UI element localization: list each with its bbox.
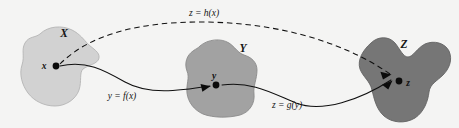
- point-dot-x: [53, 63, 60, 70]
- set-label-z: Z: [399, 38, 407, 50]
- function-composition-figure: X Y Z x y z z = h(x) y = f(x) z = g(y): [0, 0, 459, 128]
- diagram-canvas: X Y Z x y z z = h(x) y = f(x) z = g(y): [0, 0, 459, 128]
- point-label-z: z: [405, 78, 410, 88]
- set-label-y: Y: [239, 42, 247, 54]
- mapping-label-f: y = f(x): [107, 91, 137, 102]
- set-label-x: X: [59, 27, 68, 39]
- set-blob-z: [359, 38, 450, 122]
- point-dot-z: [396, 78, 403, 85]
- point-label-y: y: [211, 71, 217, 81]
- point-dot-y: [213, 82, 220, 89]
- mapping-label-h: z = h(x): [188, 8, 219, 19]
- mapping-label-g: z = g(y): [271, 100, 302, 111]
- point-label-x: x: [41, 61, 47, 71]
